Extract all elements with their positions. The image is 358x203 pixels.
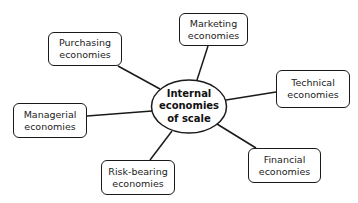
node-label: Risk-bearing <box>108 166 167 178</box>
connector-marketing <box>197 46 208 80</box>
node-label: economies <box>24 121 75 133</box>
node-label: Purchasing <box>59 37 111 49</box>
node-label: economies <box>259 166 310 178</box>
node-label: economies <box>188 30 239 42</box>
node-purchasing: Purchasing economies <box>48 32 122 66</box>
center-line-1: Internal <box>167 88 212 101</box>
node-financial: Financial economies <box>248 148 321 183</box>
node-label: economies <box>112 178 163 190</box>
center-node: Internal economies of scale <box>151 80 227 133</box>
node-label: Marketing <box>190 18 237 30</box>
center-line-2: economies <box>159 100 219 113</box>
node-label: Financial <box>264 154 306 166</box>
node-risk-bearing: Risk-bearing economies <box>101 160 175 195</box>
node-managerial: Managerial economies <box>13 103 87 138</box>
node-label: Managerial <box>24 109 77 121</box>
node-marketing: Marketing economies <box>179 13 248 46</box>
node-label: Technical <box>291 77 335 89</box>
connector-risk-bearing <box>150 131 172 160</box>
connector-managerial <box>87 111 152 116</box>
node-label: economies <box>59 49 110 61</box>
connector-technical <box>226 92 276 100</box>
node-technical: Technical economies <box>276 70 350 108</box>
center-line-3: of scale <box>167 113 211 126</box>
node-label: economies <box>287 89 338 101</box>
